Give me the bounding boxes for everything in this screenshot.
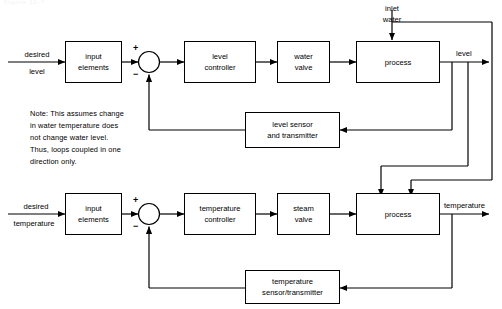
block-level-input-elements[interactable]: input elements	[65, 41, 122, 83]
label-desired-level-line1: desired	[12, 49, 62, 60]
block-level-controller[interactable]: level controller	[184, 41, 256, 83]
label-level-output: level	[456, 48, 472, 59]
block-level-process[interactable]: process	[356, 41, 440, 83]
block-steam-valve[interactable]: steam valve	[277, 193, 330, 235]
note-text: Note: This assumes change in water tempe…	[30, 108, 180, 168]
label-inlet-water: inlet water	[371, 3, 413, 26]
block-temperature-process[interactable]: process	[356, 193, 440, 235]
summing-junction-top	[139, 52, 160, 73]
label-temperature-output: temperature	[444, 200, 485, 211]
sign-minus-top: −	[133, 70, 138, 79]
label-desired-temperature-line1: desired	[8, 201, 64, 212]
block-temperature-sensor-transmitter[interactable]: temperature sensor/transmitter	[245, 270, 340, 304]
sign-plus-bottom: +	[133, 196, 138, 205]
summing-junction-bottom	[139, 204, 160, 225]
block-water-valve[interactable]: water valve	[277, 41, 330, 83]
sign-minus-bottom: −	[133, 222, 138, 231]
label-desired-level-line2: level	[12, 66, 62, 77]
label-desired-temperature-line2: temperature	[2, 218, 66, 229]
sign-plus-top: +	[133, 44, 138, 53]
block-temperature-controller[interactable]: temperature controller	[184, 193, 256, 235]
block-diagram-canvas: Figure 11-7	[0, 0, 502, 309]
block-temperature-input-elements[interactable]: input elements	[65, 193, 122, 235]
block-level-sensor-transmitter[interactable]: level sensor and transmitter	[245, 112, 340, 148]
